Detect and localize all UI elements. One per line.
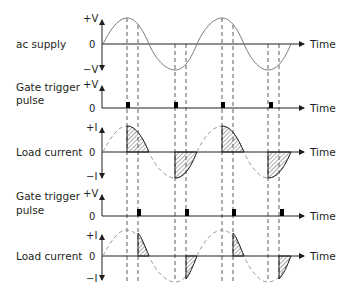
thyristor-waveform-diagram: ac supply +V 0 −V Time Gate trigger puls… (0, 0, 351, 300)
time-label: Time (309, 38, 336, 50)
tick-plus-v: +V (83, 79, 98, 90)
panel-ac-supply: ac supply +V 0 −V Time (16, 13, 336, 75)
tick-zero: 0 (89, 211, 95, 222)
panel-gate-trigger-2: Gate trigger pulse +V 0 Time (16, 188, 336, 222)
label-load-current: Load current (16, 146, 82, 158)
time-label: Time (309, 102, 336, 114)
tick-zero: 0 (89, 147, 95, 158)
label-pulse: pulse (16, 204, 44, 216)
label-pulse: pulse (16, 94, 44, 106)
dashed-guides (127, 18, 279, 282)
tick-minus-i: −I (86, 171, 97, 182)
time-label: Time (309, 250, 336, 262)
tick-plus-i: +I (86, 230, 97, 241)
label-gate-trigger: Gate trigger (16, 81, 81, 93)
tick-minus-i: −I (86, 273, 97, 284)
tick-plus-v: +V (83, 13, 98, 24)
label-ac-supply: ac supply (16, 38, 66, 50)
gate-pulses (126, 102, 273, 108)
tick-plus-i: +I (86, 122, 97, 133)
panel-load-current-2: Load current +I 0 −I Time (16, 230, 336, 284)
tick-zero: 0 (89, 103, 95, 114)
panel-load-current-1: Load current +I 0 −I Time (16, 122, 336, 182)
tick-minus-v: −V (83, 64, 98, 75)
tick-zero: 0 (89, 39, 95, 50)
gate-pulses (137, 209, 284, 216)
panel-gate-trigger-1: Gate trigger pulse +V 0 Time (16, 79, 336, 114)
time-label: Time (309, 146, 336, 158)
tick-zero: 0 (89, 251, 95, 262)
label-gate-trigger: Gate trigger (16, 190, 81, 202)
label-load-current: Load current (16, 250, 82, 262)
time-label: Time (309, 210, 336, 222)
tick-plus-v: +V (83, 188, 98, 199)
